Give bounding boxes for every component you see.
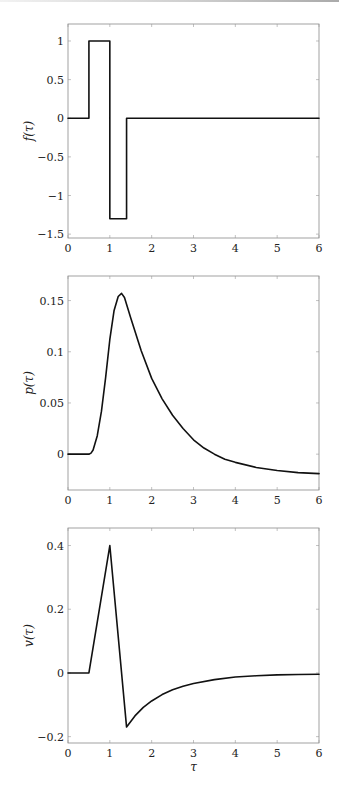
x-tick-label: 5	[274, 494, 281, 507]
x-tick-label: 6	[316, 747, 323, 760]
y-tick-label: 0	[57, 448, 64, 461]
x-tick-label: 0	[65, 494, 72, 507]
plot-f-tau: 0123456−1.5−1−0.500.51f(τ)	[22, 24, 323, 255]
x-tick-label: 4	[232, 242, 239, 255]
y-tick-label: 0.05	[40, 397, 65, 410]
y-tick-label: 0.15	[40, 295, 65, 308]
y-tick-label: 0.4	[47, 540, 65, 553]
y-tick-label: 1	[57, 35, 64, 48]
x-tick-label: 0	[65, 747, 72, 760]
y-tick-label: −0.5	[37, 151, 64, 164]
y-axis-label: v(τ)	[22, 624, 36, 647]
x-tick-label: 1	[106, 494, 113, 507]
y-tick-label: −1	[48, 190, 64, 203]
axes-frame	[68, 24, 319, 238]
axes-frame	[68, 528, 319, 743]
y-tick-label: 0.1	[47, 346, 65, 359]
series-line-p	[68, 293, 319, 473]
plot-v-tau: 0123456−0.200.20.4v(τ)τ	[22, 528, 323, 774]
x-tick-label: 6	[316, 242, 323, 255]
y-tick-label: 0	[57, 667, 64, 680]
x-tick-label: 2	[148, 242, 155, 255]
x-tick-label: 1	[106, 242, 113, 255]
y-tick-label: 0.2	[47, 603, 65, 616]
x-tick-label: 4	[232, 494, 239, 507]
y-tick-label: −1.5	[37, 228, 64, 241]
y-axis-label: f(τ)	[22, 120, 36, 142]
x-tick-label: 1	[106, 747, 113, 760]
x-tick-label: 6	[316, 494, 323, 507]
y-tick-label: −0.2	[37, 731, 64, 744]
y-tick-label: 0.5	[47, 74, 65, 87]
x-tick-label: 4	[232, 747, 239, 760]
series-line-v	[68, 546, 319, 728]
x-tick-label: 3	[190, 494, 197, 507]
x-tick-label: 5	[274, 242, 281, 255]
x-tick-label: 2	[148, 494, 155, 507]
x-axis-label: τ	[190, 760, 197, 774]
x-tick-label: 3	[190, 242, 197, 255]
x-tick-label: 3	[190, 747, 197, 760]
y-axis-label: p(τ)	[22, 371, 36, 395]
plot-p-tau: 012345600.050.10.15p(τ)	[22, 276, 323, 507]
x-tick-label: 0	[65, 242, 72, 255]
x-tick-label: 5	[274, 747, 281, 760]
series-line-f	[68, 41, 319, 219]
x-tick-label: 2	[148, 747, 155, 760]
y-tick-label: 0	[57, 112, 64, 125]
chart-figure: 0123456−1.5−1−0.500.51f(τ) 012345600.050…	[0, 0, 339, 792]
